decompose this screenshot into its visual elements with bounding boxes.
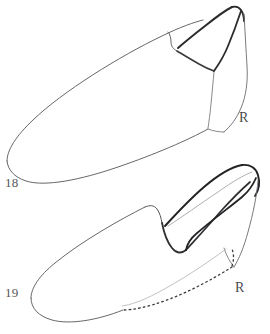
- figure-18-heel-seam: [208, 72, 214, 128]
- figure-19-side-label: R: [235, 281, 244, 295]
- figure-18-heel-breast: [208, 129, 224, 132]
- figure-18-heel-stitched-edge: [214, 11, 241, 71]
- figure-19-dotted-wedge-underside: [123, 267, 232, 310]
- figure-number-19: 19: [5, 286, 19, 299]
- figure-18-side-label: R: [239, 111, 248, 125]
- illustration-plate: 18 19 R R: [0, 0, 270, 334]
- figure-19-drawing: [31, 165, 259, 322]
- figure-18-vamp-topline: [168, 32, 177, 51]
- figure-18-body-outline: [7, 20, 203, 161]
- figure-18-sole-line: [7, 129, 208, 183]
- figure-19-sole-line: [31, 298, 123, 322]
- figure-19-body-outline: [31, 207, 145, 298]
- figure-18-throat-notch: [177, 51, 214, 71]
- figure-19-dotted-sole-line: [232, 249, 234, 266]
- figure-19-wedge-construction-line: [122, 249, 226, 306]
- figure-19-quarter-stitched-edge: [165, 165, 242, 226]
- figure-18-drawing: [7, 7, 247, 184]
- figure-19-throat-notch: [162, 223, 186, 252]
- figure-number-18: 18: [5, 176, 19, 189]
- figure-19-vamp-topline: [145, 206, 162, 223]
- figure-18-quarter-stitched-edge: [178, 7, 232, 48]
- shoe-drawings-svg: [0, 0, 270, 334]
